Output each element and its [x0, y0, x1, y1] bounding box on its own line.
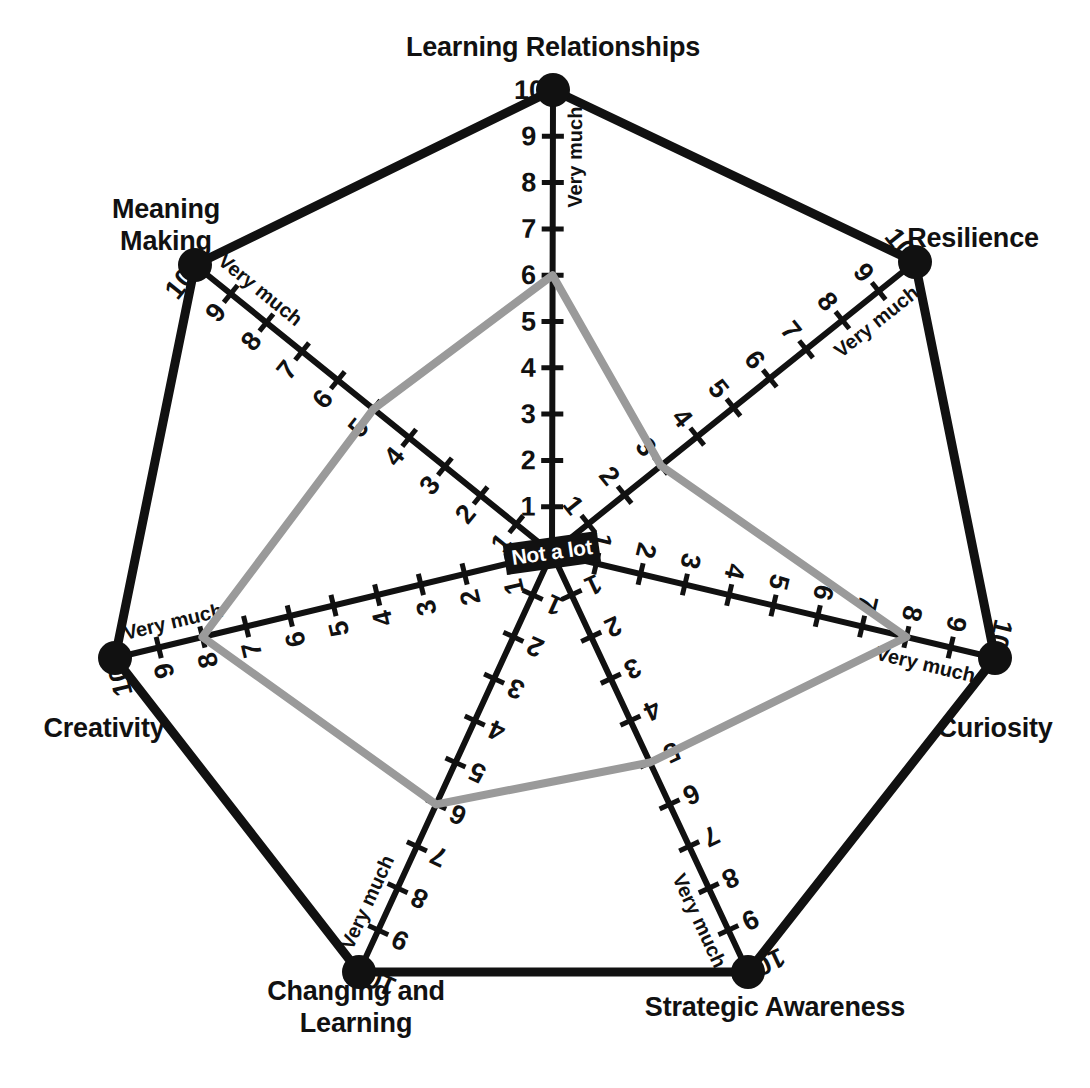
- tick-label-creativity-5: 5: [323, 618, 356, 640]
- tick-label-changing-and-learning-7: 7: [426, 840, 452, 874]
- axis-title-changing-and-learning: Changing and Learning: [267, 976, 445, 1040]
- tick-label-curiosity-4: 4: [718, 561, 751, 583]
- tick-label-strategic-awareness-3: 3: [619, 652, 645, 686]
- tick-label-learning-relationships-9: 9: [521, 121, 536, 151]
- tick-label-strategic-awareness-9: 9: [737, 903, 763, 937]
- axis-title-creativity: Creativity: [43, 713, 164, 745]
- tick-curiosity-3: [682, 574, 687, 595]
- tick-curiosity-7: [860, 616, 865, 637]
- tick-label-learning-relationships-1: 1: [521, 492, 536, 522]
- tick-label-changing-and-learning-5: 5: [464, 756, 490, 790]
- tick-creativity-7: [244, 616, 249, 637]
- axis-title-resilience: Resilience: [907, 223, 1039, 255]
- vertex-dot-learning-relationships: [536, 73, 570, 107]
- tick-label-changing-and-learning-1: 1: [541, 588, 567, 622]
- vertex-dot-creativity: [98, 641, 132, 675]
- tick-label-curiosity-8: 8: [896, 603, 929, 625]
- tick-label-creativity-4: 4: [366, 608, 399, 630]
- tick-label-creativity-7: 7: [235, 639, 268, 661]
- tick-label-curiosity-9: 9: [940, 613, 973, 635]
- tick-label-learning-relationships-4: 4: [521, 353, 536, 383]
- tick-label-creativity-1: 1: [498, 576, 531, 598]
- tick-label-learning-relationships-7: 7: [521, 214, 536, 244]
- vertex-dot-strategic-awareness: [731, 955, 765, 989]
- tick-label-strategic-awareness-2: 2: [600, 610, 626, 644]
- radar-chart: 1234567891012345678910123456789101234567…: [0, 0, 1090, 1088]
- tick-creativity-2: [462, 563, 467, 584]
- tick-label-curiosity-5: 5: [763, 571, 796, 593]
- tick-label-curiosity-3: 3: [674, 550, 707, 572]
- tick-creativity-3: [418, 574, 423, 595]
- very-much-label-learning-relationships: Very much: [564, 107, 586, 208]
- tick-label-creativity-2: 2: [454, 587, 487, 609]
- tick-label-strategic-awareness-4: 4: [639, 694, 665, 728]
- tick-creativity-6: [287, 605, 292, 626]
- tick-creativity-4: [375, 584, 380, 605]
- tick-curiosity-4: [727, 584, 732, 605]
- tick-curiosity-5: [771, 595, 776, 616]
- tick-label-creativity-9: 9: [148, 660, 181, 682]
- tick-label-strategic-awareness-8: 8: [717, 861, 743, 895]
- tick-label-strategic-awareness-1: 1: [580, 568, 606, 602]
- tick-label-curiosity-2: 2: [630, 540, 663, 562]
- tick-label-strategic-awareness-7: 7: [698, 819, 724, 853]
- tick-label-learning-relationships-2: 2: [521, 445, 536, 475]
- tick-label-changing-and-learning-2: 2: [522, 630, 548, 664]
- axis-title-meaning-making: Meaning Making: [112, 194, 220, 258]
- tick-label-changing-and-learning-9: 9: [387, 923, 413, 957]
- tick-label-changing-and-learning-3: 3: [503, 672, 529, 706]
- axis-title-curiosity: Curiosity: [937, 713, 1052, 745]
- tick-label-learning-relationships-5: 5: [521, 306, 536, 336]
- tick-creativity-5: [331, 595, 336, 616]
- tick-label-changing-and-learning-8: 8: [406, 881, 432, 915]
- tick-curiosity-6: [815, 605, 820, 626]
- vertex-dot-curiosity: [978, 641, 1012, 675]
- axis-lines: [115, 90, 995, 972]
- tick-label-learning-relationships-3: 3: [521, 399, 536, 429]
- tick-label-learning-relationships-8: 8: [521, 168, 536, 198]
- axis-title-learning-relationships: Learning Relationships: [406, 32, 700, 64]
- tick-label-creativity-6: 6: [279, 629, 312, 651]
- tick-label-strategic-awareness-6: 6: [678, 777, 704, 811]
- tick-creativity-9: [156, 637, 161, 658]
- tick-curiosity-2: [638, 563, 643, 584]
- tick-label-changing-and-learning-4: 4: [483, 714, 509, 748]
- axis-title-strategic-awareness: Strategic Awareness: [645, 992, 905, 1024]
- tick-label-creativity-3: 3: [410, 597, 443, 619]
- tick-curiosity-9: [948, 637, 953, 658]
